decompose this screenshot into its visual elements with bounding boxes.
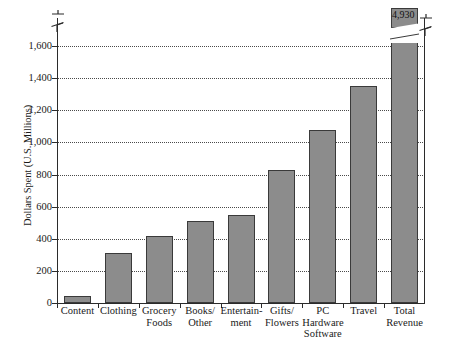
gridline (57, 46, 425, 47)
plot-area (57, 30, 425, 303)
bar-chart: Dollars Spent (U.S. Millions) 0200400600… (0, 0, 449, 344)
bar (391, 40, 418, 303)
y-tick-mark (52, 239, 57, 240)
x-axis-category-label: Books/ Other (180, 305, 221, 328)
bar (228, 215, 255, 303)
bar (105, 253, 132, 303)
y-tick-mark (52, 175, 57, 176)
bar (268, 170, 295, 303)
bar (309, 130, 336, 303)
right-axis-line (424, 18, 425, 303)
axis-break-icon (418, 12, 436, 38)
x-axis-category-label: Total Revenue (384, 305, 425, 328)
x-axis-category-label: Gifts/ Flowers (261, 305, 302, 328)
bar (146, 236, 173, 303)
x-axis-tick-labels: ContentClothingGrocery FoodsBooks/ Other… (57, 305, 425, 344)
bar (64, 296, 91, 303)
y-tick-mark (52, 142, 57, 143)
bar-break-cut (390, 31, 419, 43)
x-axis-line (57, 303, 425, 304)
bar (187, 221, 214, 303)
y-tick-label: 1,200 (8, 105, 52, 115)
y-tick-mark (52, 271, 57, 272)
y-tick-mark (52, 78, 57, 79)
y-axis-line (57, 18, 58, 303)
x-axis-category-label: Grocery Foods (139, 305, 180, 328)
y-tick-label: 800 (8, 170, 52, 180)
y-tick-label: 200 (8, 266, 52, 276)
y-tick-label: 0 (8, 298, 52, 308)
bar (350, 86, 377, 303)
y-tick-mark (52, 46, 57, 47)
x-axis-category-label: PC Hardware Software (302, 305, 343, 340)
y-tick-label: 1,000 (8, 137, 52, 147)
y-tick-label: 400 (8, 234, 52, 244)
y-axis-tick-labels: 02004006008001,0001,2001,4001,600 (0, 0, 52, 344)
gridline (57, 78, 425, 79)
y-tick-mark (52, 110, 57, 111)
x-axis-category-label: Content (57, 305, 98, 317)
y-tick-mark (52, 207, 57, 208)
x-axis-category-label: Clothing (98, 305, 139, 317)
y-tick-label: 600 (8, 202, 52, 212)
y-tick-label: 1,400 (8, 73, 52, 83)
y-tick-label: 1,600 (8, 41, 52, 51)
bar-value-label: 4,930 (392, 9, 415, 20)
axis-break-icon (50, 8, 68, 34)
x-axis-category-label: Entertain- ment (221, 305, 262, 328)
x-axis-category-label: Travel (343, 305, 384, 317)
